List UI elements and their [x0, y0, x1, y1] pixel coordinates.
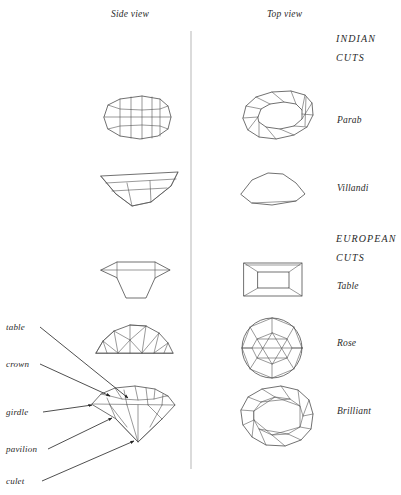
arrow-table [40, 327, 128, 398]
gem-parab-top-view [243, 91, 313, 139]
gem-villandi-side-view [101, 172, 178, 206]
gem-brilliant-side-view [92, 386, 175, 442]
arrow-girdle [43, 405, 92, 412]
diamond-cuts-figure: Side view Top view INDIAN CUTS EUROPEAN … [0, 0, 401, 495]
gem-rose-top-view [242, 318, 302, 378]
gem-table-side-view [101, 262, 170, 298]
gem-table-top-view [244, 263, 302, 296]
gem-rose-side-view [96, 325, 173, 353]
gem-brilliant-top-view [241, 386, 313, 446]
gem-parab-side-view [104, 96, 171, 139]
arrow-pavilion [48, 418, 112, 449]
arrow-culet [42, 441, 134, 481]
annotation-arrows [40, 327, 134, 481]
figure-artwork: .s{fill:none;stroke:#333;stroke-width:0.… [0, 0, 401, 495]
gem-villandi-top-view [241, 173, 305, 205]
arrow-crown [40, 364, 110, 396]
